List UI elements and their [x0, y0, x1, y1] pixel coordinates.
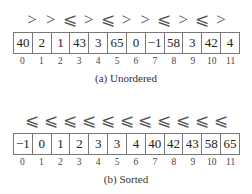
relation-symbol: ⩽	[174, 112, 193, 130]
relation-symbol: >	[79, 11, 98, 29]
relation-symbol: ⩽	[193, 11, 212, 29]
relation-symbol: ⩽	[155, 112, 174, 130]
array-index: 1	[32, 55, 51, 67]
array-index: 10	[202, 55, 221, 67]
array-index: 3	[70, 156, 89, 168]
array-index: 5	[108, 156, 127, 168]
relation-symbol: ⩽	[136, 112, 155, 130]
array-cell: 0	[127, 33, 146, 53]
array-index: 0	[13, 55, 32, 67]
array-cell: 43	[183, 134, 202, 154]
array-index: 11	[221, 156, 240, 168]
relation-symbol: ⩽	[41, 112, 60, 130]
array-cell: −1	[146, 33, 165, 53]
array-cell: 0	[33, 134, 52, 154]
array-index: 6	[127, 55, 146, 67]
relation-symbol: ⩽	[193, 112, 212, 130]
array-index: 4	[89, 55, 108, 67]
array-index: 7	[145, 55, 164, 67]
relation-symbol: >	[174, 11, 193, 29]
array-cell: 2	[33, 33, 52, 53]
array-cell: 65	[108, 33, 127, 53]
array-index: 6	[127, 156, 146, 168]
array-index: 3	[70, 55, 89, 67]
relation-symbol: ⩽	[79, 112, 98, 130]
array-index: 10	[202, 156, 221, 168]
relation-symbol: ⩽	[60, 112, 79, 130]
array-index: 4	[89, 156, 108, 168]
relation-symbol: ⩽	[155, 11, 174, 29]
array-cell: 2	[70, 134, 89, 154]
figure-caption: (a) Unordered	[0, 71, 252, 85]
array-index: 0	[13, 156, 32, 168]
array-index: 2	[51, 55, 70, 67]
array-cell: 42	[202, 33, 221, 53]
relation-symbol: ⩽	[212, 112, 231, 130]
array-index: 2	[51, 156, 70, 168]
array-cell: 58	[165, 33, 184, 53]
array-cell: 40	[146, 134, 165, 154]
array-cells: −1 0 1 2 3 3 4 40 42 43 58 65	[13, 133, 240, 155]
array-index: 11	[221, 55, 240, 67]
relation-row: > > ⩽ > ⩽ > > ⩽ > ⩽ >	[13, 11, 240, 29]
array-index: 1	[32, 156, 51, 168]
index-row: 0 1 2 3 4 5 6 7 8 9 10 11	[13, 55, 240, 67]
array-cell: 65	[221, 134, 239, 154]
relation-symbol: ⩽	[98, 112, 117, 130]
array-cell: 1	[52, 33, 71, 53]
array-index: 9	[183, 156, 202, 168]
array-cell: 58	[202, 134, 221, 154]
array-index: 5	[108, 55, 127, 67]
array-cell: 42	[165, 134, 184, 154]
array-cell: 3	[108, 134, 127, 154]
array-index: 8	[164, 156, 183, 168]
array-cell: 1	[52, 134, 71, 154]
array-cell: 43	[70, 33, 89, 53]
array-cell: 40	[14, 33, 33, 53]
relation-symbol: ⩽	[60, 11, 79, 29]
array-cell: −1	[14, 134, 33, 154]
array-index: 9	[183, 55, 202, 67]
relation-symbol: >	[212, 11, 231, 29]
array-cell: 3	[183, 33, 202, 53]
relation-symbol: ⩽	[23, 112, 42, 130]
relation-symbol: >	[136, 11, 155, 29]
array-index: 8	[164, 55, 183, 67]
relation-symbol: ⩽	[98, 11, 117, 29]
relation-row: ⩽ ⩽ ⩽ ⩽ ⩽ ⩽ ⩽ ⩽ ⩽ ⩽ ⩽	[13, 112, 240, 130]
array-cell: 3	[89, 33, 108, 53]
relation-symbol: ⩽	[117, 112, 136, 130]
figure-caption: (b) Sorted	[0, 172, 252, 186]
array-index: 7	[145, 156, 164, 168]
relation-symbol: >	[23, 11, 42, 29]
relation-symbol: >	[41, 11, 60, 29]
relation-symbol: >	[117, 11, 136, 29]
array-cell: 4	[127, 134, 146, 154]
array-cells: 40 2 1 43 3 65 0 −1 58 3 42 4	[13, 32, 240, 54]
array-cell: 3	[89, 134, 108, 154]
index-row: 0 1 2 3 4 5 6 7 8 9 10 11	[13, 156, 240, 168]
array-cell: 4	[221, 33, 239, 53]
